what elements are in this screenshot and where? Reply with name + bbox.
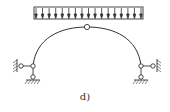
arrowhead-icon	[68, 14, 71, 19]
load-arrows	[35, 8, 143, 19]
arrowhead-icon	[41, 14, 44, 19]
arrowhead-icon	[61, 14, 64, 19]
arch-curve	[33, 27, 141, 66]
arrowhead-icon	[100, 14, 103, 19]
arrowhead-icon	[127, 14, 130, 19]
arrowhead-icon	[133, 14, 136, 19]
arrowhead-icon	[120, 14, 123, 19]
arrowhead-icon	[54, 14, 57, 19]
right-support	[133, 59, 161, 84]
arrowhead-icon	[35, 14, 38, 19]
arrowhead-icon	[113, 14, 116, 19]
arrowhead-icon	[140, 14, 143, 19]
arrowhead-icon	[94, 14, 97, 19]
arrowhead-icon	[107, 14, 110, 19]
crown-hinge-icon	[84, 24, 89, 29]
arrowhead-icon	[74, 14, 77, 19]
arrowhead-icon	[87, 14, 90, 19]
figure-label: d)	[0, 91, 170, 102]
left-support	[13, 59, 40, 84]
arrowhead-icon	[81, 14, 84, 19]
arrowhead-icon	[48, 14, 51, 19]
